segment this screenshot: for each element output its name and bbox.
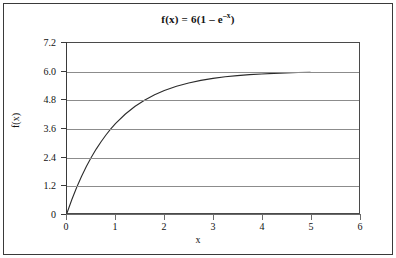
x-axis-title: x [0,234,396,245]
y-axis-tick [61,71,66,72]
y-axis-tick [61,157,66,158]
plot-area [66,42,360,214]
x-axis-tick-label: 4 [250,221,274,232]
chart-title-main: f(x) = 6(1 – e [161,13,223,25]
gridline-y [67,186,359,187]
chart-title-tail: ) [231,13,235,25]
y-axis-tick-label: 6.0 [12,65,56,76]
chart-figure: f(x) = 6(1 – e–x) f(x) x 01.22.43.64.86.… [0,0,396,258]
chart-title-exponent: –x [223,11,231,20]
y-axis-tick-label: 0 [12,209,56,220]
gridline-y [67,158,359,159]
y-axis-tick-label: 2.4 [12,151,56,162]
x-axis-tick-label: 3 [201,221,225,232]
gridline-y [67,72,359,73]
y-axis-tick [61,185,66,186]
y-axis-tick-label: 3.6 [12,123,56,134]
x-axis-tick [115,215,116,220]
x-axis-tick-label: 6 [348,221,372,232]
x-axis-tick-label: 1 [103,221,127,232]
y-axis-tick [61,99,66,100]
chart-title: f(x) = 6(1 – e–x) [0,13,396,25]
x-axis-tick [213,215,214,220]
y-axis-tick-label: 7.2 [12,37,56,48]
y-axis-tick [61,42,66,43]
y-axis-line [66,42,67,215]
x-axis-tick [66,215,67,220]
curve-svg [67,43,359,213]
x-axis-tick-label: 0 [54,221,78,232]
x-axis-tick [164,215,165,220]
y-axis-tick-label: 4.8 [12,94,56,105]
gridline-y [67,100,359,101]
gridline-y [67,129,359,130]
y-axis-tick-label: 1.2 [12,180,56,191]
y-axis-tick [61,128,66,129]
data-curve [67,72,310,213]
x-axis-tick [262,215,263,220]
x-axis-tick-label: 5 [299,221,323,232]
x-axis-tick [311,215,312,220]
x-axis-tick [360,215,361,220]
x-axis-tick-label: 2 [152,221,176,232]
